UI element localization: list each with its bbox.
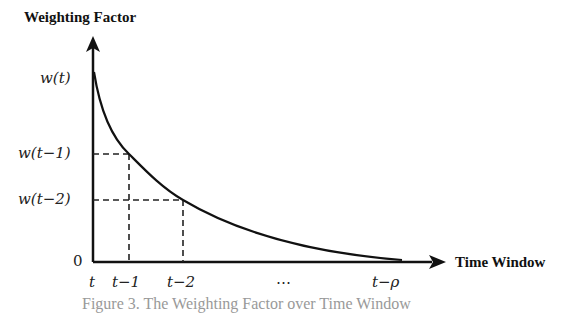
figure-caption: Figure 3. The Weighting Factor over Time…	[82, 295, 411, 313]
y-axis-title: Weighting Factor	[24, 9, 136, 26]
y-label-w-t-1: w(t−1)	[18, 144, 71, 162]
x-axis-title: Time Window	[455, 254, 545, 271]
x-label-t-rho: t−ρ	[372, 273, 399, 291]
y-label-w-t: w(t)	[40, 69, 71, 87]
x-label-ellipsis: ⋯	[276, 273, 291, 291]
y-label-zero: 0	[73, 252, 83, 270]
x-label-t-2: t−2	[167, 273, 195, 291]
x-label-t-1: t−1	[112, 273, 140, 291]
x-label-t: t	[89, 273, 95, 291]
decay-curve	[94, 72, 402, 260]
y-label-w-t-2: w(t−2)	[18, 190, 71, 208]
